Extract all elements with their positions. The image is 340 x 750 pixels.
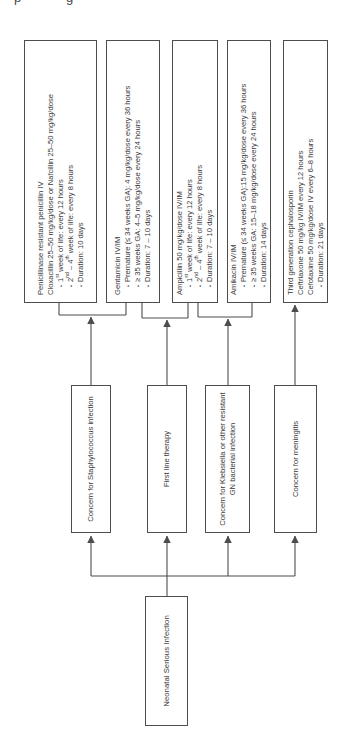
root-label: Neonatal Serious Infection bbox=[162, 615, 172, 706]
bullet-dot: • bbox=[205, 282, 215, 290]
treatment-line: Ampicillin 50 mg/kg/dose IV/IM bbox=[175, 47, 185, 295]
treatment-line: Third generation cephalosporin bbox=[286, 47, 296, 295]
treatment-line-text: Duration: 10 days bbox=[76, 222, 85, 282]
treatment-line: •Duration: 10 days bbox=[76, 47, 86, 295]
treatment-line-text: Duration: 7 – 10 days bbox=[143, 210, 152, 282]
bullet-dot: • bbox=[316, 282, 326, 290]
treatment-line-text: Penicillinase resistant penicillin IV bbox=[36, 181, 45, 295]
cropped-glyph: g bbox=[66, 0, 73, 5]
treatment-line-text: 2nd – 4th week of life: every 8 hours bbox=[195, 165, 204, 282]
bullet-dot: • bbox=[133, 282, 143, 290]
cropped-caption-artifact: p g bbox=[0, 0, 340, 4]
bullet-dot: • bbox=[143, 282, 153, 290]
treatment-box-ampicillin: Ampicillin 50 mg/kg/dose IV/IM•1st week … bbox=[172, 40, 218, 303]
treatment-line-text: ≥ 35 weeks GA: 15–18 mg/kg/dose every 24… bbox=[249, 112, 258, 282]
treatment-line-text: Cloxacillin 25–50 mg/kg/dose or Nafcilli… bbox=[46, 94, 55, 295]
treatment-line: •≥ 35 weeks GA: 15–18 mg/kg/dose every 2… bbox=[249, 47, 259, 295]
treatment-line-text: Ceftriaxone 50 mg/kg IV/IM every 12 hour… bbox=[296, 151, 305, 295]
treatment-line: •Premature (≤ 34 weeks GA):15 mg/kg/dose… bbox=[239, 47, 249, 295]
bullet-dot: • bbox=[76, 282, 86, 290]
treatment-line-text: 1st week of life: every 12 hours bbox=[56, 179, 65, 282]
branch-box-klebsiella: Concern for Klebsiella or other resistan… bbox=[205, 385, 250, 533]
bracket-2 bbox=[142, 302, 188, 318]
treatment-box-amikacin: Amikacin IV/IM•Premature (≤ 34 weeks GA)… bbox=[227, 40, 271, 303]
treatment-line-text: Cefotaxime 50 mg/kg/dose IV every 6–8 ho… bbox=[306, 139, 315, 295]
treatment-line-text: Ampicillin 50 mg/kg/dose IV/IM bbox=[175, 191, 184, 295]
bullet-dot: • bbox=[195, 282, 205, 290]
branch-box-first-line-therapy: First line therapy bbox=[147, 385, 187, 533]
flowchart-stage: Neonatal Serious Infection Concern for S… bbox=[0, 0, 340, 750]
treatment-line: •2nd – 4th week of life: every 8 hours bbox=[66, 47, 76, 295]
cropped-glyph: p bbox=[14, 0, 21, 5]
treatment-line: •Premature (≤ 34 weeks GA): 4 mg/kg/dose… bbox=[123, 47, 133, 295]
root-box-neonatal-serious-infection: Neonatal Serious Infection bbox=[145, 596, 188, 726]
branch-label: Concern for Staphylococcus infection bbox=[86, 396, 96, 521]
treatment-line-text: 1st week of life: every 12 hours bbox=[185, 179, 194, 282]
treatment-line: •2nd – 4th week of life: every 8 hours bbox=[195, 47, 205, 295]
bullet-dot: • bbox=[185, 282, 195, 290]
branch-box-staphylococcus: Concern for Staphylococcus infection bbox=[71, 385, 111, 533]
treatment-box-penicillinase-resistant-penicillin: Penicillinase resistant penicillin IVClo… bbox=[24, 40, 97, 303]
bullet-dot: • bbox=[56, 282, 66, 290]
treatment-line-text: Duration: 7 – 10 days bbox=[205, 210, 214, 282]
treatment-line: •Duration: 14 days bbox=[259, 47, 269, 295]
treatment-line-text: Third generation cephalosporin bbox=[286, 190, 295, 295]
treatment-line: •Duration: 21 days bbox=[316, 47, 326, 295]
treatment-line: •Duration: 7 – 10 days bbox=[143, 47, 153, 295]
bracket-1 bbox=[59, 302, 126, 315]
bullet-dot: • bbox=[239, 282, 249, 290]
treatment-line: Cloxacillin 25–50 mg/kg/dose or Nafcilli… bbox=[46, 47, 56, 295]
flowchart-screenshot: Neonatal Serious Infection Concern for S… bbox=[0, 0, 340, 750]
treatment-line-text: Premature (≤ 34 weeks GA): 4 mg/kg/dose … bbox=[123, 86, 132, 282]
treatment-line-text: Amikacin IV/IM bbox=[229, 244, 238, 295]
treatment-box-gentamicin: Gentamicin IV/IM•Premature (≤ 34 weeks G… bbox=[106, 40, 160, 303]
treatment-line-text: Duration: 21 days bbox=[316, 222, 325, 282]
treatment-line: •≥ 35 weeks GA: 4–5 mg/kg/dose every 24 … bbox=[133, 47, 143, 295]
treatment-line-text: 2nd – 4th week of life: every 8 hours bbox=[66, 165, 75, 282]
treatment-line-text: ≥ 35 weeks GA: 4–5 mg/kg/dose every 24 h… bbox=[133, 120, 142, 282]
bullet-dot: • bbox=[249, 282, 259, 290]
treatment-line: Cefotaxime 50 mg/kg/dose IV every 6–8 ho… bbox=[306, 47, 316, 295]
treatment-line: Penicillinase resistant penicillin IV bbox=[36, 47, 46, 295]
treatment-line-text: Premature (≤ 34 weeks GA):15 mg/kg/dose … bbox=[239, 84, 248, 282]
treatment-line: Ceftriaxone 50 mg/kg IV/IM every 12 hour… bbox=[296, 47, 306, 295]
bullet-dot: • bbox=[66, 282, 76, 290]
treatment-line-text: Gentamicin IV/IM bbox=[113, 237, 122, 295]
branch-box-meningitis: Concern for meningitis bbox=[274, 385, 317, 533]
bullet-dot: • bbox=[259, 282, 269, 290]
treatment-line: •Duration: 7 – 10 days bbox=[205, 47, 215, 295]
treatment-line: Gentamicin IV/IM bbox=[113, 47, 123, 295]
treatment-line-text: Duration: 14 days bbox=[259, 222, 268, 282]
branch-label: First line therapy bbox=[162, 431, 172, 487]
bracket-3 bbox=[198, 302, 252, 317]
treatment-box-third-gen-cephalosporin: Third generation cephalosporinCeftriaxon… bbox=[283, 40, 328, 303]
treatment-line: Amikacin IV/IM bbox=[229, 47, 239, 295]
branch-label: Concern for Klebsiella or other resistan… bbox=[218, 390, 238, 528]
branch-label: Concern for meningitis bbox=[291, 421, 301, 497]
bullet-dot: • bbox=[123, 282, 133, 290]
